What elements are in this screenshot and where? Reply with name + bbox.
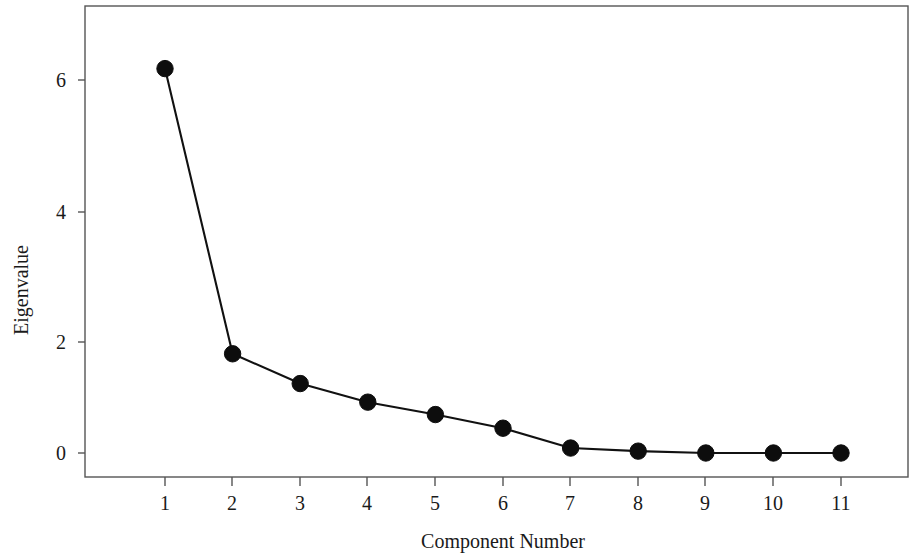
- data-point-marker: [157, 60, 173, 76]
- data-point-marker: [630, 443, 646, 459]
- x-tick-label-6: 6: [498, 492, 508, 514]
- data-point-marker: [562, 440, 578, 456]
- y-axis-title: Eigenvalue: [10, 245, 33, 335]
- x-axis-tick-labels: 1 2 3 4 5 6 7 8 9 10 11: [160, 492, 851, 514]
- x-tick-label-7: 7: [565, 492, 575, 514]
- x-tick-label-4: 4: [362, 492, 372, 514]
- scree-plot-figure: 6 4 2 0 Eigenvalue 1 2 3 4 5: [0, 0, 917, 557]
- x-axis-title: Component Number: [421, 530, 585, 553]
- y-tick-label-2: 2: [56, 331, 66, 353]
- x-axis-ticks: [165, 477, 841, 486]
- eigenvalue-series-line: [165, 69, 841, 453]
- x-tick-label-5: 5: [430, 492, 440, 514]
- data-point-marker: [224, 346, 240, 362]
- data-point-marker: [495, 420, 511, 436]
- y-tick-label-4: 4: [56, 201, 66, 223]
- x-tick-label-9: 9: [700, 492, 710, 514]
- scree-plot-svg: 6 4 2 0 Eigenvalue 1 2 3 4 5: [0, 0, 917, 557]
- y-axis-tick-labels: 6 4 2 0: [56, 69, 66, 464]
- x-tick-label-8: 8: [633, 492, 643, 514]
- x-tick-label-2: 2: [227, 492, 237, 514]
- y-tick-label-0: 0: [56, 442, 66, 464]
- y-axis-ticks: [78, 80, 85, 453]
- data-point-marker: [292, 375, 308, 391]
- data-point-marker: [360, 394, 376, 410]
- data-point-marker: [427, 406, 443, 422]
- x-tick-label-1: 1: [160, 492, 170, 514]
- eigenvalue-series-markers: [157, 60, 849, 461]
- plot-frame: [85, 6, 908, 477]
- x-tick-label-11: 11: [831, 492, 850, 514]
- x-tick-label-3: 3: [295, 492, 305, 514]
- x-tick-label-10: 10: [763, 492, 783, 514]
- data-point-marker: [833, 445, 849, 461]
- data-point-marker: [698, 445, 714, 461]
- y-tick-label-6: 6: [56, 69, 66, 91]
- data-point-marker: [765, 445, 781, 461]
